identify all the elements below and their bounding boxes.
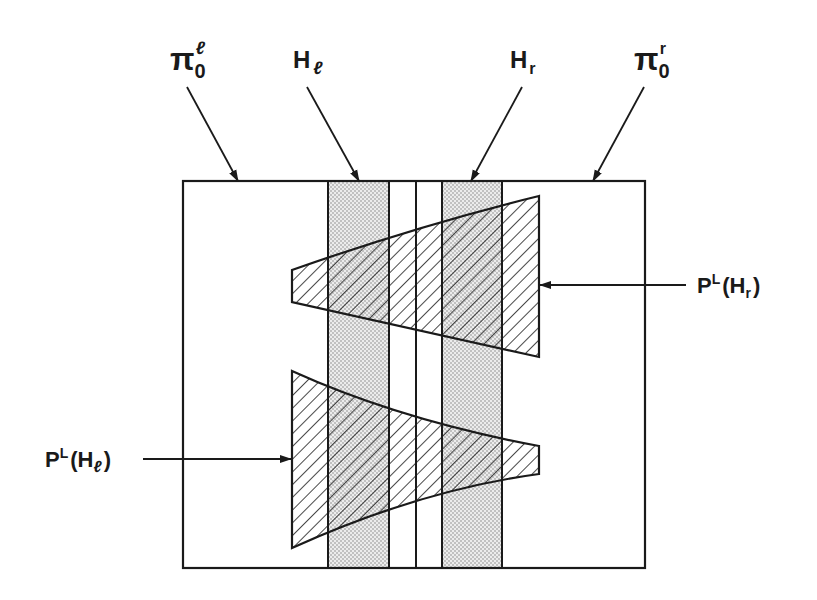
label-h-right: Hr: [510, 46, 536, 77]
label-p-h-right: PL(Hr): [697, 271, 760, 301]
label-pi-right: π0r: [634, 40, 670, 82]
label-pi-left: π0ℓ: [170, 38, 206, 82]
diagram: π0ℓ Hℓ Hr π0r PL(Hr) PL(Hℓ): [0, 0, 817, 600]
arrow-pi-right: [593, 87, 644, 181]
label-p-h-left: PL(Hℓ): [45, 445, 111, 475]
arrow-h-left: [307, 87, 359, 181]
arrow-pi-left: [187, 87, 238, 181]
arrow-h-right: [471, 87, 522, 181]
label-h-left: Hℓ: [293, 46, 323, 78]
